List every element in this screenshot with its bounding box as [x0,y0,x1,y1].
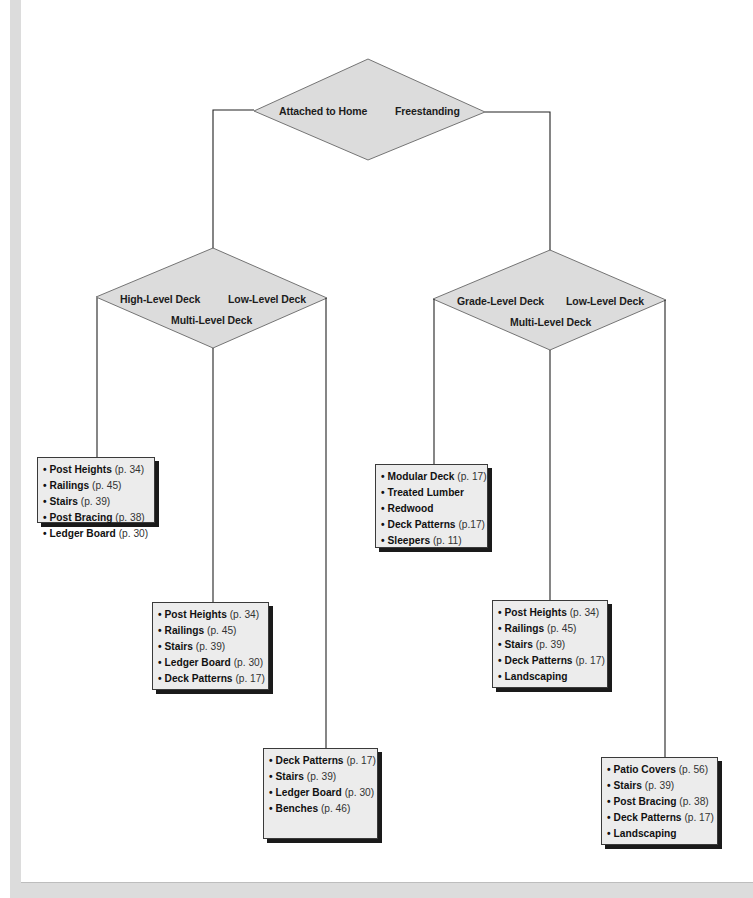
list-item: •Post Bracing (p. 38) [607,794,717,810]
list-item: •Stairs (p. 39) [607,778,717,794]
list-item: •Sleepers (p. 11) [381,533,487,549]
list-high-level-deck: •Post Heights (p. 34) •Railings (p. 45) … [37,457,155,523]
option-grade-level-deck: Grade-Level Deck [457,295,544,307]
connector-freestanding [485,112,550,251]
list-item: •Patio Covers (p. 56) [607,762,717,778]
list-multi-level-deck-freestanding: •Post Heights (p. 34) •Railings (p. 45) … [492,600,608,688]
option-low-level-deck-freestanding: Low-Level Deck [566,295,644,307]
list-item: •Deck Patterns (p. 17) [269,753,377,769]
list-item: •Stairs (p. 39) [269,769,377,785]
list-low-level-deck-attached: •Deck Patterns (p. 17) •Stairs (p. 39) •… [263,748,378,839]
option-multi-level-deck-freestanding: Multi-Level Deck [510,316,591,328]
list-item: •Stairs (p. 39) [498,637,607,653]
list-item: •Treated Lumber [381,485,487,501]
list-grade-level-deck: •Modular Deck (p. 17) •Treated Lumber •R… [375,464,488,548]
list-item: •Landscaping [607,826,717,842]
list-item: •Deck Patterns (p.17) [381,517,487,533]
list-item: •Ledger Board (p. 30) [158,655,268,671]
list-item: •Railings (p. 45) [43,478,154,494]
option-high-level-deck: High-Level Deck [120,293,200,305]
list-item: •Post Bracing (p. 38) [43,510,154,526]
list-item: •Railings (p. 45) [498,621,607,637]
list-item: •Landscaping [498,669,607,685]
option-attached-to-home: Attached to Home [279,105,367,117]
list-item: •Modular Deck (p. 17) [381,469,487,485]
list-item: •Deck Patterns (p. 17) [607,810,717,826]
list-multi-level-deck-attached: •Post Heights (p. 34) •Railings (p. 45) … [152,602,269,690]
list-item: •Ledger Board (p. 30) [43,526,154,542]
list-item: •Railings (p. 45) [158,623,268,639]
list-item: •Post Heights (p. 34) [43,462,154,478]
list-item: •Post Heights (p. 34) [498,605,607,621]
list-item: •Ledger Board (p. 30) [269,785,377,801]
option-multi-level-deck-attached: Multi-Level Deck [171,314,252,326]
option-freestanding: Freestanding [395,105,460,117]
list-item: •Stairs (p. 39) [158,639,268,655]
option-low-level-deck-attached: Low-Level Deck [228,293,306,305]
list-item: •Deck Patterns (p. 17) [158,671,268,687]
list-item: •Deck Patterns (p. 17) [498,653,607,669]
connector-attached [213,110,254,249]
list-item: •Stairs (p. 39) [43,494,154,510]
list-item: •Redwood [381,501,487,517]
list-item: •Post Heights (p. 34) [158,607,268,623]
list-low-level-deck-freestanding: •Patio Covers (p. 56) •Stairs (p. 39) •P… [601,757,718,845]
list-item: •Benches (p. 46) [269,801,377,817]
